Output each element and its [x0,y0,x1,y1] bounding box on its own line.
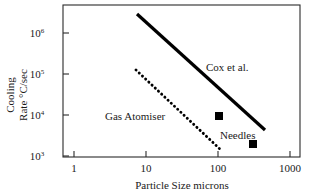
y-axis-label-line1: Cooling [4,77,16,113]
cooling-rate-chart: 106 105 104 103 1 10 100 1000 Particle S… [0,0,318,194]
annotation-gas-atomiser: Gas Atomiser [105,110,166,122]
data-point-marker [249,140,257,148]
x-tick-label-10: 10 [141,162,153,174]
y-axis-label-line2: Rate °C/sec [17,69,29,121]
x-tick-label-1000: 1000 [279,162,302,174]
annotation-needles: Needles [220,129,255,141]
data-point-marker [215,112,223,120]
x-tick-label-100: 100 [210,162,227,174]
annotation-cox-et-al: Cox et al. [206,61,249,73]
x-tick-label-1: 1 [71,162,77,174]
x-axis-label: Particle Size microns [135,179,228,191]
chart-svg: 106 105 104 103 1 10 100 1000 Particle S… [0,0,318,194]
chart-background [0,0,318,194]
